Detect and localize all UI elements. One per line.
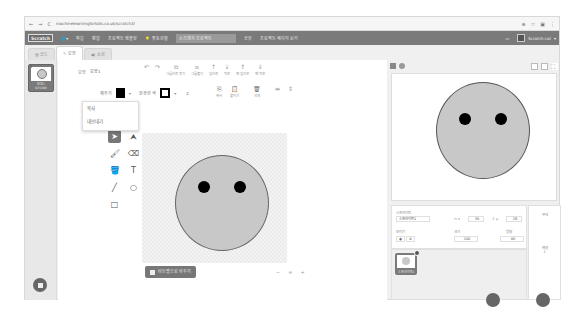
bitmap-icon xyxy=(150,270,155,275)
reshape-icon: ⮝ xyxy=(130,132,137,142)
line-tool[interactable]: ╱ xyxy=(108,181,121,194)
fill-tool[interactable]: 🪣 xyxy=(108,164,121,177)
globe-icon[interactable]: 🌐▾ xyxy=(61,36,68,41)
menu-icon[interactable]: ⋮ xyxy=(550,21,555,27)
fill-color-swatch[interactable] xyxy=(116,88,125,98)
zoom-in-icon[interactable]: + xyxy=(300,269,304,275)
normal-stage-button[interactable] xyxy=(541,63,548,70)
zoom-reset-icon[interactable]: = xyxy=(288,269,292,275)
sprite-item[interactable]: 스프라이트1 xyxy=(395,253,417,275)
circle-tool[interactable]: ○ xyxy=(127,181,140,194)
backward-button[interactable]: ↓뒤로 xyxy=(224,64,230,76)
paint-canvas[interactable] xyxy=(142,133,287,263)
face-shape[interactable] xyxy=(175,155,269,251)
text-icon: T xyxy=(131,166,136,175)
direction-input[interactable]: 90 xyxy=(500,236,524,242)
stop-icon[interactable] xyxy=(399,63,405,69)
costume-icon xyxy=(38,283,43,288)
eraser-icon: ⌫ xyxy=(128,149,139,158)
tab-sounds[interactable]: ◀) 소리 xyxy=(84,48,112,60)
costume-size: 97x100 xyxy=(29,87,53,91)
menu-project-templates[interactable]: 프로젝트 템플릿 xyxy=(108,35,137,41)
send-back-icon: ⇓ xyxy=(258,64,263,70)
x-label: ↔ x xyxy=(454,217,460,221)
copy-button[interactable]: ⎘복사 xyxy=(216,86,222,98)
costume-name-input[interactable]: 모양1 xyxy=(90,68,120,76)
tab-costumes[interactable]: ✎ 모양 xyxy=(56,46,83,60)
menu-tutorials[interactable]: 💡 튜토리얼 xyxy=(145,35,167,41)
x-input[interactable]: 36 xyxy=(468,216,484,222)
stage-label: 무대 xyxy=(529,212,560,217)
scratch-logo[interactable]: Scratch xyxy=(28,34,53,42)
costume-context-menu: 복사 내보내기 xyxy=(82,101,139,131)
right-eye[interactable] xyxy=(234,181,246,193)
extension-icon[interactable]: ▣ xyxy=(540,21,545,27)
zoom-out-icon[interactable]: − xyxy=(276,269,280,275)
front-button[interactable]: ⇑맨 앞으로 xyxy=(236,64,249,76)
context-menu-duplicate[interactable]: 복사 xyxy=(83,102,138,115)
paste-icon: 📋 xyxy=(231,86,238,92)
paste-button[interactable]: 📋붙이기 xyxy=(230,86,239,98)
tab-code[interactable]: ▤ 코드 xyxy=(28,48,55,60)
sprite-on-stage[interactable] xyxy=(436,82,530,179)
text-tool[interactable]: T xyxy=(127,164,140,177)
menu-file[interactable]: 파일 xyxy=(76,35,84,41)
avatar xyxy=(517,34,525,42)
user-menu[interactable]: Scratch-cat ▾ xyxy=(517,34,556,42)
star-icon[interactable]: ☆ xyxy=(531,21,535,27)
costume-label: 모양 xyxy=(78,69,86,75)
chevron-down-icon[interactable]: ▾ xyxy=(129,91,131,96)
delete-sprite-icon[interactable] xyxy=(414,250,420,256)
costume-item[interactable]: 1 모양1 97x100 xyxy=(28,64,54,92)
forward-icon[interactable]: → xyxy=(38,21,42,27)
circle-icon: ○ xyxy=(130,183,137,192)
forward-button[interactable]: ↑앞으로 xyxy=(209,64,218,76)
left-eye[interactable] xyxy=(198,181,210,193)
eraser-tool[interactable]: ⌫ xyxy=(127,147,140,160)
project-title-input[interactable]: 스크래치 프로젝트 xyxy=(176,34,236,43)
back-button[interactable]: ⇓맨 뒤로 xyxy=(255,64,265,76)
y-input[interactable]: 28 xyxy=(506,216,522,222)
ungroup-button[interactable]: ⧈그룹풀기 xyxy=(191,64,203,76)
fullscreen-button[interactable]: ⛶ xyxy=(551,63,558,70)
add-costume-button[interactable] xyxy=(33,278,47,292)
menu-edit[interactable]: 편집 xyxy=(92,35,100,41)
add-backdrop-button[interactable] xyxy=(536,293,550,307)
flip-vertical-button[interactable]: ⇕ xyxy=(288,86,293,98)
context-menu-export[interactable]: 내보내기 xyxy=(83,115,138,128)
add-sprite-button[interactable] xyxy=(486,293,500,307)
rectangle-tool[interactable]: □ xyxy=(108,198,121,211)
stage[interactable] xyxy=(391,73,557,201)
back-icon[interactable]: ← xyxy=(29,21,33,27)
show-visible-button[interactable]: ◉ xyxy=(396,236,405,242)
chevron-down-icon[interactable]: ▾ xyxy=(174,91,176,96)
outline-color-swatch[interactable] xyxy=(160,88,170,98)
brush-tool[interactable]: 🖌 xyxy=(108,147,121,160)
reload-icon[interactable]: C xyxy=(47,21,51,27)
size-input[interactable]: 100 xyxy=(454,236,478,242)
share-button[interactable]: 공유 xyxy=(244,35,252,41)
folder-icon[interactable]: ▭ xyxy=(505,36,509,41)
flip-horizontal-button[interactable]: ⇹ xyxy=(275,86,280,98)
outline-width-input[interactable]: 2 xyxy=(186,91,189,96)
group-button[interactable]: ⧉그룹으로 묶기 xyxy=(166,64,185,76)
delete-button[interactable]: 🗑삭제 xyxy=(253,86,261,98)
zoom-icon[interactable]: ⊕ xyxy=(522,21,526,27)
flip-vertical-icon: ⇕ xyxy=(288,86,293,92)
y-label: ↕ y xyxy=(492,217,498,221)
see-project-page-button[interactable]: 프로젝트 페이지 보기 xyxy=(260,35,299,41)
select-tool[interactable]: ➤ xyxy=(108,130,121,143)
url-field[interactable]: machinelearningforkids.co.uk/scratch3/ xyxy=(56,21,517,26)
sprite-info-panel: 스프라이트 스프라이트1 ↔ x 36 ↕ y 28 보이기 ◉ ⊘ 크기 10… xyxy=(391,205,527,249)
undo-button[interactable]: ↶ xyxy=(144,64,149,70)
sprite-name: 스프라이트1 xyxy=(395,270,417,274)
stage-selector[interactable]: 무대 배경 1 xyxy=(528,205,561,300)
sprite-name-input[interactable]: 스프라이트1 xyxy=(396,216,430,222)
green-flag-icon[interactable] xyxy=(390,63,396,69)
hide-button[interactable]: ⊘ xyxy=(406,236,415,242)
redo-button[interactable]: ↷ xyxy=(155,64,160,70)
reshape-tool[interactable]: ⮝ xyxy=(127,130,140,143)
flip-horizontal-icon: ⇹ xyxy=(275,86,280,92)
small-stage-button[interactable] xyxy=(531,63,538,70)
convert-to-bitmap-button[interactable]: 비트맵으로 바꾸기 xyxy=(145,266,196,278)
